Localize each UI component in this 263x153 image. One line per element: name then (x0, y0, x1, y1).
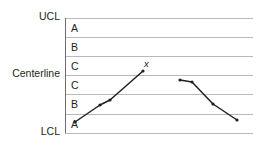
data-point (178, 78, 181, 81)
annotation-point-label: x (144, 59, 149, 69)
lower-control-limit-label: LCL (41, 126, 60, 137)
zone-label-lower-middle: B (71, 99, 78, 110)
data-point (235, 118, 238, 121)
zone-label-upper-inner: C (71, 61, 79, 72)
zone-label-lower-inner: C (71, 80, 79, 91)
upper-control-limit-label: UCL (39, 11, 60, 22)
data-point (98, 103, 101, 106)
control-chart: UCL Centerline LCL ABCCBA x (0, 0, 263, 153)
data-series (73, 69, 238, 123)
gridlines (65, 19, 253, 134)
data-point (190, 80, 193, 83)
data-point (141, 69, 144, 72)
data-point (108, 98, 111, 101)
zone-label-upper-outer: A (71, 23, 78, 34)
data-point (211, 102, 214, 105)
centerline-label: Centerline (12, 68, 60, 79)
zone-label-lower-outer: A (71, 119, 78, 130)
zone-label-upper-middle: B (71, 42, 78, 53)
